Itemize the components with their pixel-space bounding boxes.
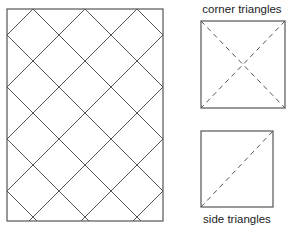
diagram-canvas: corner triangles side triangles	[0, 0, 288, 228]
lattice-line-down	[0, 0, 223, 147]
corner-triangles-figure: corner triangles	[201, 3, 285, 108]
corner-triangles-label: corner triangles	[202, 3, 282, 15]
side-triangles-label: side triangles	[203, 213, 271, 225]
quilt-layout	[0, 0, 223, 228]
lattice-line-up	[0, 0, 223, 95]
lattice-line-up	[0, 79, 223, 228]
lattice-line-down	[0, 79, 223, 228]
side-square	[201, 131, 273, 207]
lattice-line-down	[0, 0, 223, 43]
diamond-lattice	[0, 0, 223, 228]
lattice-line-up	[0, 0, 223, 199]
lattice-line-down	[0, 0, 223, 199]
side-triangles-figure: side triangles	[201, 131, 273, 225]
lattice-line-down	[0, 131, 223, 228]
lattice-line-up	[0, 27, 223, 228]
side-diagonal	[201, 131, 273, 207]
lattice-line-up	[0, 131, 223, 228]
lattice-line-up	[0, 0, 223, 147]
lattice-line-down	[0, 0, 223, 95]
lattice-line-up	[0, 0, 223, 43]
lattice-line-down	[0, 27, 223, 228]
